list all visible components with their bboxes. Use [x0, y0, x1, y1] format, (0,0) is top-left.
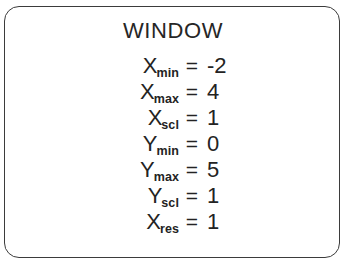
calculator-window-screen: WINDOW Xmin = -2 Xmax = 4 Xscl = 1: [0, 0, 354, 272]
setting-label-subscript: min: [156, 66, 179, 80]
equals-sign: =: [181, 53, 203, 79]
equals-sign: =: [181, 183, 203, 209]
setting-label-base: X: [146, 209, 161, 234]
setting-row-ymax[interactable]: Ymax = 5: [5, 157, 341, 183]
setting-label-yscl: Yscl: [5, 183, 181, 212]
setting-label-xmax: Xmax: [5, 79, 181, 108]
setting-value-xmin[interactable]: -2: [203, 53, 227, 79]
setting-label-ymin: Ymin: [5, 131, 181, 160]
setting-label-subscript: scl: [161, 196, 179, 210]
setting-row-ymin[interactable]: Ymin = 0: [5, 131, 341, 157]
setting-row-xscl[interactable]: Xscl = 1: [5, 105, 341, 131]
setting-label-subscript: scl: [161, 118, 179, 132]
setting-value-xres[interactable]: 1: [203, 209, 219, 235]
equals-sign: =: [181, 79, 203, 105]
setting-label-subscript: min: [156, 144, 179, 158]
page-title: WINDOW: [5, 20, 341, 42]
setting-label-subscript: res: [160, 222, 179, 236]
setting-label-ymax: Ymax: [5, 157, 181, 186]
screen-frame: WINDOW Xmin = -2 Xmax = 4 Xscl = 1: [4, 6, 340, 258]
setting-row-yscl[interactable]: Yscl = 1: [5, 183, 341, 209]
equals-sign: =: [181, 157, 203, 183]
setting-value-ymin[interactable]: 0: [203, 131, 219, 157]
equals-sign: =: [181, 131, 203, 157]
setting-label-base: Y: [140, 157, 155, 182]
setting-label-xres: Xres: [5, 209, 181, 238]
setting-label-base: X: [140, 79, 155, 104]
setting-row-xmin[interactable]: Xmin = -2: [5, 53, 341, 79]
window-settings-list: Xmin = -2 Xmax = 4 Xscl = 1 Ymin = 0: [5, 53, 341, 235]
equals-sign: =: [181, 105, 203, 131]
setting-value-ymax[interactable]: 5: [203, 157, 219, 183]
setting-value-yscl[interactable]: 1: [203, 183, 219, 209]
setting-row-xres[interactable]: Xres = 1: [5, 209, 341, 235]
setting-value-xscl[interactable]: 1: [203, 105, 219, 131]
setting-label-xmin: Xmin: [5, 53, 181, 82]
setting-label-subscript: max: [154, 170, 179, 184]
setting-label-xscl: Xscl: [5, 105, 181, 134]
equals-sign: =: [181, 209, 203, 235]
setting-label-subscript: max: [154, 92, 179, 106]
setting-row-xmax[interactable]: Xmax = 4: [5, 79, 341, 105]
setting-value-xmax[interactable]: 4: [203, 79, 219, 105]
